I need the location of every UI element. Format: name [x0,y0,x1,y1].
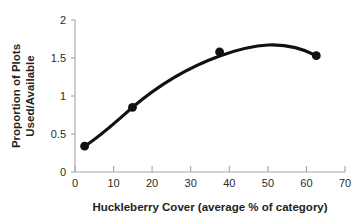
y-axis-ticks [71,20,75,172]
data-point-2 [128,103,137,112]
x-axis-tick-labels: 0 10 20 30 40 50 60 70 [72,177,351,189]
chart-canvas: 2 1.5 1 0.5 0 0 10 20 30 40 50 60 70 [0,0,364,223]
chart-figure: 2 1.5 1 0.5 0 0 10 20 30 40 50 60 70 [0,0,364,223]
x-axis-title: Huckleberry Cover (average % of category… [92,201,327,213]
y-tick-label-0: 0 [60,166,66,178]
x-tick-label-70: 70 [339,177,351,189]
fitted-curve [85,45,317,146]
x-tick-label-20: 20 [146,177,158,189]
x-tick-label-30: 30 [185,177,197,189]
y-axis-tick-labels: 2 1.5 1 0.5 0 [51,14,66,178]
x-tick-label-50: 50 [262,177,274,189]
y-axis-title: Proportion of Plots Used/Available [10,44,36,148]
y-tick-label-1: 1 [60,90,66,102]
x-tick-label-60: 60 [300,177,312,189]
y-axis-title-line2: Used/Available [24,55,36,136]
y-tick-label-0p5: 0.5 [51,128,66,140]
data-point-3 [215,48,224,57]
x-tick-label-0: 0 [72,177,78,189]
y-tick-label-1p5: 1.5 [51,52,66,64]
x-axis-ticks [75,166,345,172]
x-tick-label-10: 10 [107,177,119,189]
data-point-4 [312,51,321,60]
y-tick-label-2: 2 [60,14,66,26]
data-point-1 [80,142,89,151]
x-tick-label-40: 40 [223,177,235,189]
y-axis-title-line1: Proportion of Plots [10,44,22,148]
